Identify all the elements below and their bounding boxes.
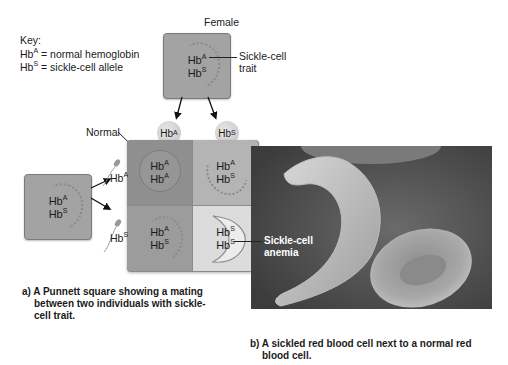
caption-a: a) A Punnett square showing a mating bet… — [22, 286, 206, 322]
sickle-cell-anemia-label: Sickle-cell anemia — [264, 235, 313, 259]
key-item-sickle: HbS = sickle-cell allele — [20, 61, 139, 75]
key-legend: Key: HbA = normal hemoglobin HbS = sickl… — [20, 34, 139, 75]
anemia-leader-line — [234, 241, 262, 242]
male-genotype-box: HbA HbS — [24, 174, 92, 240]
punnett-cell-aa: HbA HbA — [127, 140, 192, 205]
caption-b: b) A sickled red blood cell next to a no… — [250, 338, 472, 362]
punnett-cell-ss: HbS HbS — [193, 206, 258, 271]
key-item-normal: HbA = normal hemoglobin — [20, 48, 139, 62]
punnett-cell-as-top: HbA HbS — [193, 140, 258, 205]
sperm-gamete-s: HbS — [110, 232, 128, 244]
sem-micrograph-red-blood-cells — [251, 146, 492, 309]
female-genotype-box: HbA HbS — [163, 33, 231, 99]
blood-cells-image — [251, 146, 492, 309]
sperm-gamete-a: HbA — [110, 172, 128, 184]
trait-leader-line — [209, 57, 237, 58]
punnett-square: HbA HbA HbA HbS HbA HbS HbS HbS — [127, 140, 259, 272]
normal-label: Normal — [86, 126, 120, 138]
male-genotype: HbA HbS — [25, 195, 91, 220]
key-title: Key: — [20, 34, 139, 48]
female-label: Female — [204, 16, 239, 28]
sickle-cell-trait-label: Sickle-cell trait — [239, 50, 286, 74]
punnett-cell-as-bottom: HbA HbS — [127, 206, 192, 271]
